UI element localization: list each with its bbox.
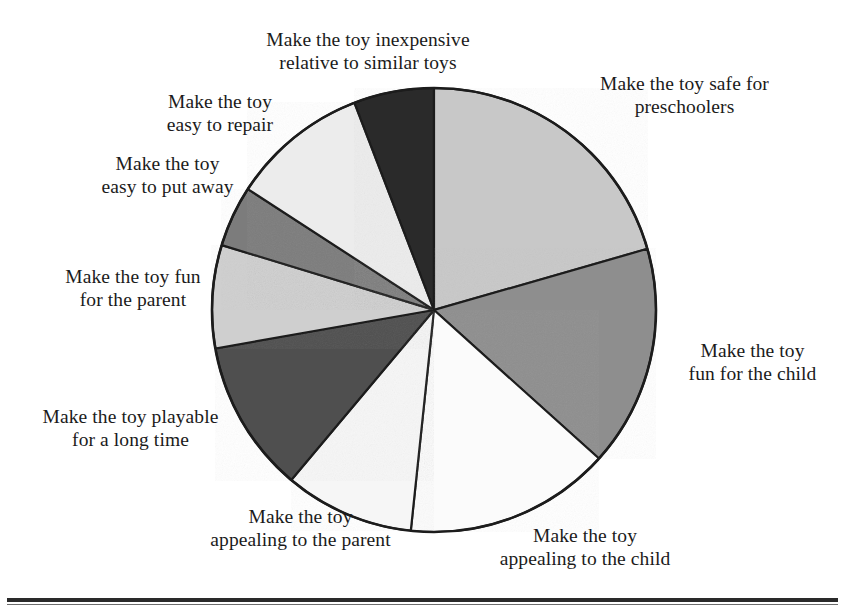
label-line-1: Make the toy fun: [38, 265, 228, 288]
pie-slices-group: [212, 88, 656, 532]
label-line-1: Make the toy: [168, 505, 433, 528]
slice-label-easy-to-repair: Make the toy easy to repair: [120, 90, 320, 137]
footer-rule-shadow: [7, 604, 838, 605]
slice-label-playable-for-a-long-time: Make the toy playable for a long time: [18, 405, 243, 452]
label-line-1: Make the toy: [460, 524, 710, 547]
slice-label-fun-for-the-child: Make the toy fun for the child: [660, 339, 845, 386]
label-line-1: Make the toy: [60, 152, 275, 175]
label-line-1: Make the toy safe for: [552, 72, 817, 95]
label-line-1: Make the toy: [660, 339, 845, 362]
slice-label-appealing-to-the-parent: Make the toy appealing to the parent: [168, 505, 433, 552]
label-line-2: preschoolers: [552, 95, 817, 118]
slice-label-fun-for-the-parent: Make the toy fun for the parent: [38, 265, 228, 312]
slice-label-inexpensive: Make the toy inexpensive relative to sim…: [218, 28, 518, 75]
pie-chart-figure: Make the toy inexpensive relative to sim…: [0, 0, 845, 616]
label-line-2: easy to repair: [120, 113, 320, 136]
label-line-2: for the parent: [38, 288, 228, 311]
label-line-1: Make the toy inexpensive: [218, 28, 518, 51]
footer-rule: [7, 598, 838, 602]
label-line-2: relative to similar toys: [218, 51, 518, 74]
label-line-2: fun for the child: [660, 362, 845, 385]
slice-label-easy-to-put-away: Make the toy easy to put away: [60, 152, 275, 199]
label-line-2: appealing to the child: [460, 547, 710, 570]
slice-label-safe-for-preschoolers: Make the toy safe for preschoolers: [552, 72, 817, 119]
label-line-1: Make the toy playable: [18, 405, 243, 428]
label-line-2: easy to put away: [60, 175, 275, 198]
label-line-2: for a long time: [18, 428, 243, 451]
label-line-1: Make the toy: [120, 90, 320, 113]
label-line-2: appealing to the parent: [168, 528, 433, 551]
slice-label-appealing-to-the-child: Make the toy appealing to the child: [460, 524, 710, 571]
